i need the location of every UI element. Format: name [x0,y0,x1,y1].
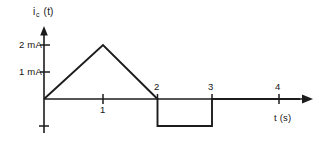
y-axis-arrowhead [40,26,48,36]
plot-canvas [0,0,319,145]
x-axis-title: t (s) [274,113,291,123]
x-tick-label-4: 4 [275,82,280,92]
current-waveform-figure: ic (t) 2 mA 1 mA 1 2 3 4 t (s) [0,0,319,145]
y-axis-title-tail: (t) [41,6,54,17]
y-axis-title: ic (t) [33,7,54,18]
current-waveform-trace [44,45,300,126]
y-tick-label-1ma: 1 mA [19,67,42,77]
x-tick-label-1: 1 [100,105,105,115]
x-axis-arrowhead [302,95,313,104]
x-tick-label-3: 3 [208,82,213,92]
y-tick-label-2ma: 2 mA [19,40,42,50]
x-tick-label-2: 2 [154,82,159,92]
